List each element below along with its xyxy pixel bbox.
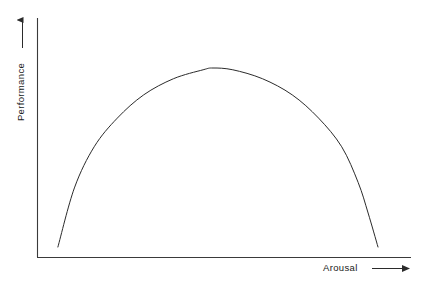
y-axis-label-text: Performance [15, 63, 26, 121]
chart-canvas [0, 0, 430, 287]
performance-curve [58, 68, 378, 247]
chart-figure: Performance Arousal [0, 0, 430, 287]
y-axis-label: Performance [10, 42, 30, 142]
x-axis-label-text: Arousal [323, 262, 358, 273]
